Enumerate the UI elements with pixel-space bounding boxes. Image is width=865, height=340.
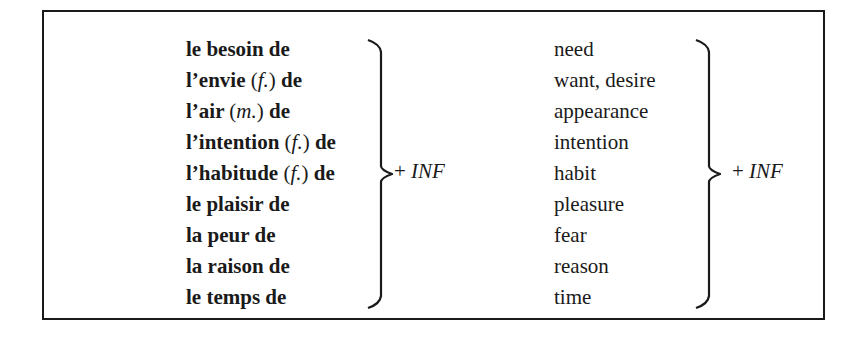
french-item: la peur de	[186, 220, 336, 251]
english-item: reason	[554, 251, 655, 282]
gender-note: (f.)	[285, 130, 310, 154]
english-item: need	[554, 34, 655, 65]
french-phrase: l’air	[186, 99, 224, 123]
french-item: l’air (m.) de	[186, 96, 336, 127]
french-phrase: la raison de	[186, 254, 290, 278]
french-suffix: de	[269, 99, 290, 123]
french-phrase: l’envie	[186, 68, 245, 92]
gender-note: (f.)	[283, 161, 308, 185]
french-item: l’habitude (f.) de	[186, 158, 336, 189]
english-column: need want, desire appearance intention h…	[554, 34, 655, 313]
gender-abbr: m.	[236, 99, 256, 123]
gender-note: (m.)	[229, 99, 263, 123]
gender-abbr: f.	[258, 68, 269, 92]
french-phrase: l’intention	[186, 130, 279, 154]
french-phrase: le temps de	[186, 285, 286, 309]
french-suffix: de	[315, 130, 336, 154]
french-phrase: l’habitude	[186, 161, 278, 185]
inf-text: INF	[411, 159, 445, 183]
french-phrase: le plaisir de	[186, 192, 289, 216]
plus-sign: +	[732, 159, 744, 183]
french-item: l’intention (f.) de	[186, 127, 336, 158]
english-item: time	[554, 282, 655, 313]
vocabulary-box: le besoin de l’envie (f.) de l’air (m.) …	[42, 10, 825, 320]
english-inf-label: + INF	[732, 159, 783, 184]
english-item: want, desire	[554, 65, 655, 96]
french-inf-label: + INF	[394, 159, 445, 184]
english-item: intention	[554, 127, 655, 158]
french-suffix: de	[314, 161, 335, 185]
french-item: le besoin de	[186, 34, 336, 65]
plus-sign: +	[394, 159, 406, 183]
french-item: le plaisir de	[186, 189, 336, 220]
french-column: le besoin de l’envie (f.) de l’air (m.) …	[186, 34, 336, 313]
french-phrase: le besoin de	[186, 37, 290, 61]
gender-abbr: f.	[292, 130, 303, 154]
french-item: l’envie (f.) de	[186, 65, 336, 96]
english-item: appearance	[554, 96, 655, 127]
english-brace-icon	[694, 38, 726, 310]
english-item: fear	[554, 220, 655, 251]
french-phrase: la peur de	[186, 223, 275, 247]
french-suffix: de	[281, 68, 302, 92]
french-item: le temps de	[186, 282, 336, 313]
french-item: la raison de	[186, 251, 336, 282]
english-item: habit	[554, 158, 655, 189]
gender-note: (f.)	[251, 68, 276, 92]
gender-abbr: f.	[290, 161, 301, 185]
english-item: pleasure	[554, 189, 655, 220]
inf-text: INF	[749, 159, 783, 183]
